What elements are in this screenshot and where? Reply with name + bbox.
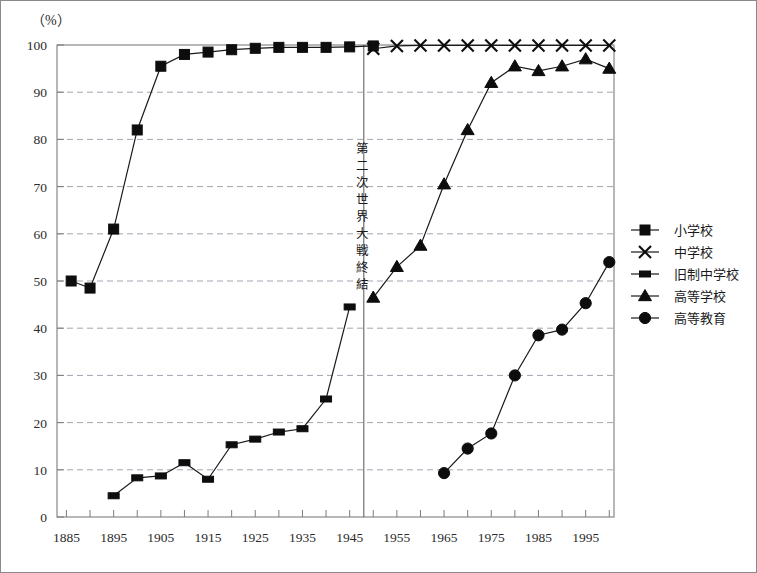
- series-中学校: [367, 39, 615, 54]
- annotation-char: 大: [356, 226, 369, 241]
- annotation-char: 第: [356, 141, 369, 156]
- annotation-char: 界: [356, 209, 369, 224]
- marker-square: [640, 225, 650, 235]
- x-tick-label-1965: 1965: [431, 530, 458, 545]
- y-axis-labels: 0102030405060708090100: [27, 38, 48, 525]
- grid-layer: [57, 92, 614, 470]
- y-tick-label-10: 10: [34, 463, 48, 478]
- marker-small-rect: [108, 493, 119, 499]
- y-tick-label-20: 20: [34, 416, 48, 431]
- x-tick-label-1905: 1905: [147, 530, 174, 545]
- marker-square: [345, 42, 355, 52]
- annotation-char: 戦: [356, 243, 369, 258]
- marker-square: [156, 61, 166, 71]
- y-tick-label-40: 40: [34, 321, 48, 336]
- legend-item-高等学校[interactable]: 高等学校: [631, 289, 726, 304]
- legend-item-旧制中学校[interactable]: 旧制中学校: [631, 267, 739, 282]
- marker-circle: [604, 257, 615, 268]
- marker-small-rect: [132, 475, 143, 481]
- series-path: [71, 46, 373, 288]
- annotation-char: 世: [356, 192, 369, 207]
- marker-square: [109, 224, 119, 234]
- marker-small-rect: [344, 304, 355, 310]
- series-高等学校: [367, 53, 616, 303]
- x-tick-label-1975: 1975: [478, 530, 505, 545]
- enrollment-rate-chart: 0102030405060708090100 18851895190519151…: [1, 1, 757, 573]
- x-tick-label-1955: 1955: [383, 530, 410, 545]
- y-tick-label-0: 0: [40, 510, 47, 525]
- marker-triangle: [579, 53, 592, 64]
- marker-small-rect: [226, 442, 237, 448]
- marker-square: [321, 42, 331, 52]
- marker-circle: [580, 298, 591, 309]
- legend-label: 中学校: [674, 245, 713, 260]
- marker-square: [203, 47, 213, 57]
- x-tick-label-1935: 1935: [289, 530, 316, 545]
- marker-square: [132, 125, 142, 135]
- annotation-char: 二: [356, 158, 369, 173]
- marker-circle: [509, 370, 520, 381]
- marker-circle: [533, 330, 544, 341]
- marker-square: [297, 42, 307, 52]
- x-tick-label-1995: 1995: [572, 530, 599, 545]
- marker-triangle: [438, 178, 451, 189]
- series-path: [114, 307, 350, 496]
- legend-label: 高等学校: [674, 289, 726, 304]
- marker-circle: [438, 468, 449, 479]
- legend-item-小学校[interactable]: 小学校: [631, 223, 713, 238]
- marker-triangle: [485, 76, 498, 87]
- x-tick-label-1885: 1885: [53, 530, 80, 545]
- legend-item-中学校[interactable]: 中学校: [631, 245, 713, 260]
- x-tick-label-1945: 1945: [336, 530, 363, 545]
- marker-small-rect: [155, 473, 166, 479]
- series-path: [373, 59, 609, 297]
- legend-label: 高等教育: [674, 311, 726, 326]
- series-layer: [66, 39, 616, 498]
- y-tick-label-60: 60: [34, 227, 48, 242]
- x-tick-label-1895: 1895: [100, 530, 127, 545]
- y-tick-label-30: 30: [34, 368, 48, 383]
- war-end-annotation: 第二次世界大戦終結: [356, 45, 369, 517]
- marker-square: [227, 45, 237, 55]
- marker-square: [85, 283, 95, 293]
- x-tick-label-1985: 1985: [525, 530, 552, 545]
- marker-small-rect: [203, 476, 214, 482]
- x-tick-label-1915: 1915: [195, 530, 222, 545]
- marker-triangle: [414, 239, 427, 250]
- marker-square: [179, 49, 189, 59]
- y-tick-label-80: 80: [34, 132, 48, 147]
- marker-circle: [639, 312, 650, 323]
- marker-small-rect: [273, 429, 284, 435]
- marker-circle: [486, 428, 497, 439]
- marker-triangle: [461, 123, 474, 134]
- marker-square: [250, 43, 260, 53]
- y-tick-label-100: 100: [27, 38, 48, 53]
- marker-circle: [462, 443, 473, 454]
- marker-small-rect: [297, 426, 308, 432]
- y-tick-label-70: 70: [34, 180, 48, 195]
- marker-triangle: [639, 290, 652, 301]
- legend-item-高等教育[interactable]: 高等教育: [631, 311, 726, 326]
- marker-square: [274, 42, 284, 52]
- unit-label: （%）: [31, 13, 71, 28]
- y-tick-label-50: 50: [34, 274, 48, 289]
- series-path: [444, 262, 609, 473]
- annotation-char: 次: [356, 175, 369, 190]
- chart-legend: 小学校中学校旧制中学校高等学校高等教育: [631, 223, 739, 326]
- series-小学校: [66, 41, 378, 293]
- x-tick-label-1925: 1925: [242, 530, 269, 545]
- x-axis-labels: 1885189519051915192519351945195519651975…: [53, 530, 599, 545]
- marker-triangle: [508, 60, 521, 71]
- legend-label: 旧制中学校: [674, 267, 739, 282]
- y-tick-label-90: 90: [34, 85, 48, 100]
- marker-small-rect: [250, 436, 261, 442]
- figure-page: 0102030405060708090100 18851895190519151…: [0, 0, 757, 573]
- marker-circle: [556, 324, 567, 335]
- annotation-char: 終: [356, 260, 369, 275]
- legend-label: 小学校: [674, 223, 713, 238]
- marker-square: [66, 276, 76, 286]
- marker-triangle: [367, 291, 380, 302]
- marker-small-rect: [321, 396, 332, 402]
- marker-small-rect: [640, 271, 651, 277]
- marker-small-rect: [179, 460, 190, 466]
